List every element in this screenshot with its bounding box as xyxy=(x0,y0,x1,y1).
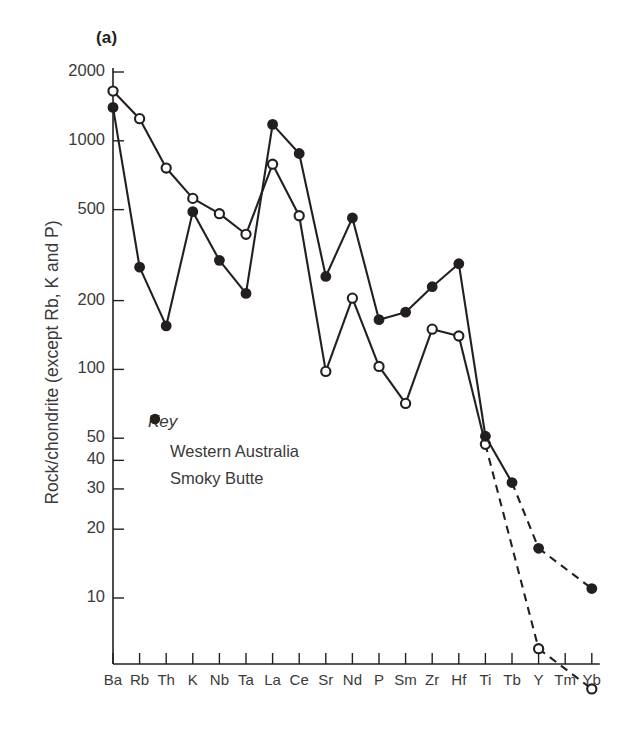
series-line-segment xyxy=(512,483,539,549)
data-point-open xyxy=(428,325,437,334)
data-point-filled xyxy=(161,320,172,331)
data-point-open xyxy=(321,367,330,376)
y-tick-label: 40 xyxy=(35,449,105,468)
legend-item-western-australia: Western Australia xyxy=(148,441,299,461)
y-tick-label: 1000 xyxy=(35,130,105,149)
data-point-filled xyxy=(480,431,491,442)
data-point-filled xyxy=(453,258,464,269)
data-point-open xyxy=(295,211,304,220)
data-point-open xyxy=(374,362,383,371)
data-point-filled xyxy=(134,262,145,273)
data-point-open xyxy=(534,644,543,653)
data-point-filled xyxy=(294,148,305,159)
x-tick-label: Yb xyxy=(572,671,612,688)
data-point-filled xyxy=(108,102,119,113)
series-line-segment xyxy=(406,329,433,403)
data-point-open xyxy=(454,331,463,340)
data-point-filled xyxy=(267,119,278,130)
data-point-filled xyxy=(347,213,358,224)
data-point-filled xyxy=(214,255,225,266)
data-point-filled xyxy=(241,288,252,299)
y-tick-label: 50 xyxy=(35,427,105,446)
series-line-segment xyxy=(219,260,246,293)
data-point-filled xyxy=(320,271,331,282)
y-tick-label: 200 xyxy=(35,290,105,309)
series-line-segment xyxy=(539,548,592,588)
series-line-segment xyxy=(326,298,353,371)
data-point-open xyxy=(241,230,250,239)
legend-label-western-australia: Western Australia xyxy=(170,442,299,461)
series-line-segment xyxy=(166,168,193,198)
series-line-segment xyxy=(379,366,406,403)
data-point-open xyxy=(401,399,410,408)
series-line-segment xyxy=(273,124,300,153)
data-point-filled xyxy=(374,314,385,325)
y-tick-label: 500 xyxy=(35,199,105,218)
series-line-segment xyxy=(113,107,140,267)
data-point-filled xyxy=(400,307,411,318)
data-point-open xyxy=(135,114,144,123)
data-point-filled xyxy=(586,583,597,594)
y-tick-label: 20 xyxy=(35,518,105,537)
data-point-open xyxy=(215,209,224,218)
series-line-segment xyxy=(406,287,433,312)
data-point-filled xyxy=(507,477,518,488)
series-line-segment xyxy=(352,218,379,320)
data-point-open xyxy=(108,86,117,95)
y-tick-label: 100 xyxy=(35,358,105,377)
series-line-segment xyxy=(140,119,167,168)
legend-title: Key xyxy=(148,412,299,432)
series-line-segment xyxy=(193,212,220,261)
series-line-segment xyxy=(246,164,273,234)
spider-diagram-figure: (a) Rock/chondrite (except Rb, K and P) … xyxy=(0,0,626,733)
data-point-open xyxy=(268,160,277,169)
series-line-segment xyxy=(273,164,300,216)
data-point-filled xyxy=(187,206,198,217)
data-point-open xyxy=(188,194,197,203)
series-line-segment xyxy=(166,212,193,326)
series-line-segment xyxy=(485,444,538,648)
legend: Key Western Australia Smoky Butte xyxy=(148,412,299,495)
data-point-filled xyxy=(533,543,544,554)
series-line-segment xyxy=(326,218,353,277)
series-line-segment xyxy=(140,267,167,326)
y-tick-label: 30 xyxy=(35,478,105,497)
y-tick-label: 10 xyxy=(35,587,105,606)
data-point-open xyxy=(348,294,357,303)
legend-label-smoky-butte: Smoky Butte xyxy=(170,469,264,488)
legend-item-smoky-butte: Smoky Butte xyxy=(148,468,299,488)
data-point-filled xyxy=(427,281,438,292)
series-line-segment xyxy=(299,216,326,372)
y-tick-label: 2000 xyxy=(35,61,105,80)
series-line-segment xyxy=(246,124,273,293)
data-point-open xyxy=(162,163,171,172)
